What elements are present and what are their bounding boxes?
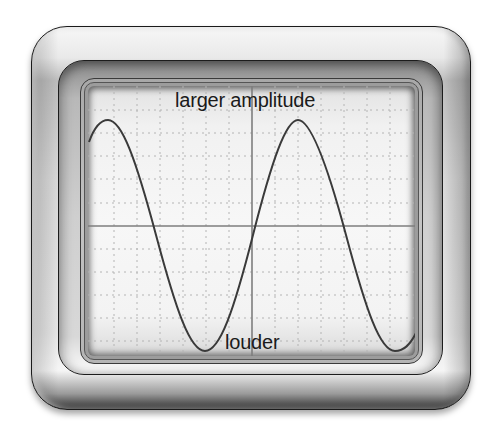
amplitude-label: larger amplitude [175, 90, 315, 110]
oscilloscope-diagram: larger amplitude louder [0, 0, 503, 440]
oscilloscope-screen [88, 86, 415, 356]
waveform-graph [88, 86, 415, 356]
loudness-label: louder [225, 332, 279, 352]
